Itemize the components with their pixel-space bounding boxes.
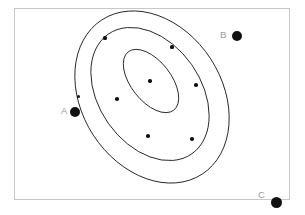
marker-dot-c [271, 197, 282, 208]
data-point [77, 95, 80, 98]
data-point [190, 137, 194, 141]
marker-label-c: C [258, 190, 265, 200]
data-point [170, 45, 173, 48]
data-point [148, 79, 152, 83]
marker-label-b: B [220, 30, 226, 40]
marker-dot-b [232, 31, 242, 41]
data-point [146, 134, 150, 138]
marker-label-a: A [61, 106, 67, 116]
data-point [103, 36, 106, 39]
figure-canvas: ABC [0, 0, 305, 215]
data-point [194, 83, 198, 87]
marker-dot-a [70, 107, 80, 117]
contour-layer [0, 0, 305, 215]
middle-contour [66, 5, 233, 183]
data-point [115, 97, 119, 101]
